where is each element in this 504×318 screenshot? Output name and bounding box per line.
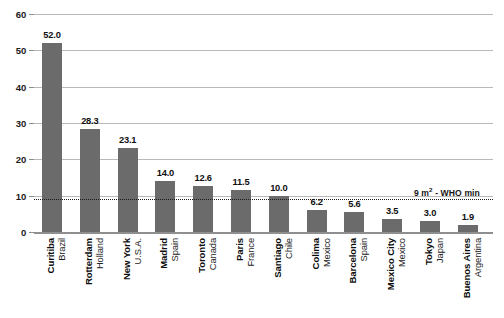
bar-chart: 60 50 40 30 20 10 0 52.0 28.3 23.1 14.0 …: [0, 0, 504, 318]
category-country-mexico-city: Mexico: [395, 238, 409, 318]
category-country-buenos-aires: Argentina: [471, 238, 485, 318]
ytick-dash-40: [29, 87, 34, 88]
category-country-santiago: Chile: [282, 238, 296, 318]
category-country-colima: Mexico: [320, 238, 334, 318]
ytick-dash-20: [29, 159, 34, 160]
bar-madrid: [155, 181, 175, 232]
category-country-madrid: Spain: [168, 238, 182, 318]
bar-curitiba: [42, 43, 62, 232]
bar-mexico-city: [382, 219, 402, 232]
axis-baseline: [34, 232, 493, 234]
ytick-label-0: 0: [0, 228, 26, 238]
category-country-toronto: Canada: [206, 238, 220, 318]
bar-barcelona: [344, 212, 364, 232]
ytick-dash-0: [29, 232, 34, 233]
ytick-label-40: 40: [0, 83, 26, 93]
value-label-curitiba: 52.0: [32, 31, 72, 40]
gridline-60: [34, 14, 493, 15]
bar-buenos-aires: [458, 225, 478, 232]
value-label-madrid: 14.0: [145, 169, 185, 178]
who-minimum-line: [34, 199, 493, 200]
ytick-label-60: 60: [0, 10, 26, 20]
gridline-40: [34, 87, 493, 88]
bar-new-york: [118, 148, 138, 232]
value-label-paris: 11.5: [221, 178, 261, 187]
value-label-barcelona: 5.6: [334, 200, 374, 209]
bar-santiago: [269, 196, 289, 232]
category-country-curitiba: Brazil: [55, 238, 69, 318]
value-label-buenos-aires: 1.9: [448, 213, 488, 222]
bar-colima: [307, 210, 327, 233]
category-country-paris: France: [244, 238, 258, 318]
value-label-santiago: 10.0: [259, 184, 299, 193]
who-minimum-label: 9 m2 - WHO min: [414, 186, 480, 198]
category-country-new-york: U.S.A.: [131, 238, 145, 318]
value-label-toronto: 12.6: [183, 174, 223, 183]
value-label-tokyo: 3.0: [410, 209, 450, 218]
gridline-20: [34, 159, 493, 160]
gridline-50: [34, 50, 493, 51]
ytick-dash-10: [29, 196, 34, 197]
ytick-dash-60: [29, 14, 34, 15]
bar-tokyo: [420, 221, 440, 232]
category-country-barcelona: Spain: [357, 238, 371, 318]
bar-rotterdam: [80, 129, 100, 232]
ytick-label-20: 20: [0, 155, 26, 165]
ytick-label-10: 10: [0, 192, 26, 202]
category-country-tokyo: Japan: [433, 238, 447, 318]
value-label-rotterdam: 28.3: [70, 117, 110, 126]
ytick-label-50: 50: [0, 46, 26, 56]
who-label-suffix: - WHO min: [433, 188, 480, 198]
bar-paris: [231, 190, 251, 232]
category-country-rotterdam: Holland: [93, 238, 107, 318]
who-label-prefix: 9 m: [414, 188, 429, 198]
ytick-dash-30: [29, 123, 34, 124]
ytick-dash-50: [29, 50, 34, 51]
value-label-mexico-city: 3.5: [372, 207, 412, 216]
bar-toronto: [193, 186, 213, 232]
ytick-label-30: 30: [0, 119, 26, 129]
value-label-new-york: 23.1: [108, 136, 148, 145]
